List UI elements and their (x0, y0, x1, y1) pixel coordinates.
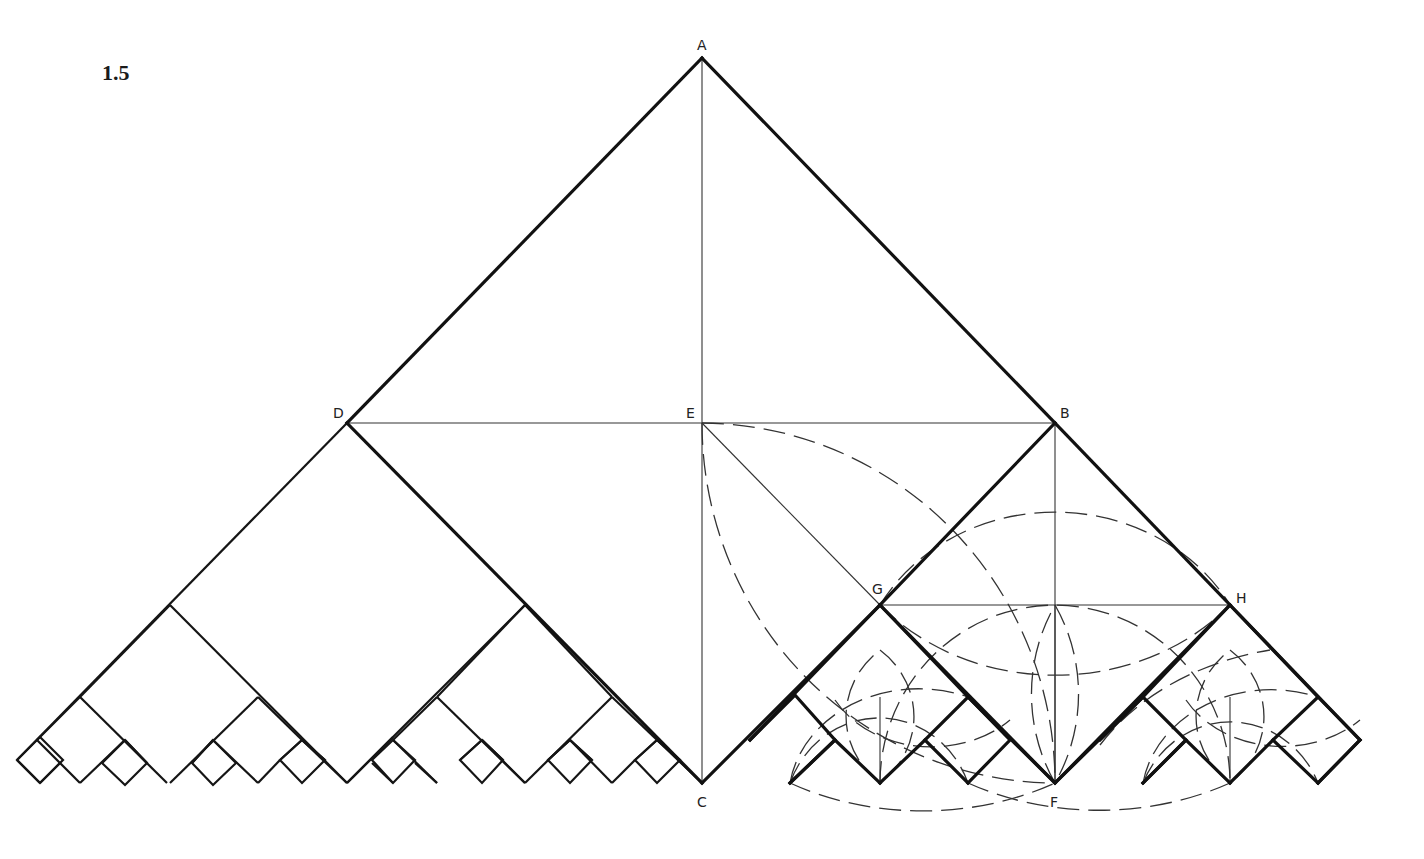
subdivision-lines (17, 423, 702, 783)
construction-square (1100, 697, 1186, 783)
thin-construction-lines (347, 58, 1230, 783)
subdivision-line (37, 740, 80, 783)
dashed-arc (790, 718, 968, 783)
label-E: E (686, 405, 695, 421)
dashed-arc (880, 650, 914, 783)
small-square (460, 740, 503, 783)
right-zigzag (750, 605, 1318, 783)
geometric-construction-diagram: A B C D E F G H (0, 0, 1424, 859)
main-triangle-edges (347, 58, 1360, 783)
subdivision-line (415, 763, 437, 783)
subdivision-line (393, 697, 437, 740)
triangle-edge (1318, 740, 1360, 783)
small-square (548, 740, 592, 783)
construction-square (1273, 697, 1360, 783)
construction-square (1143, 740, 1230, 783)
small-square (372, 740, 415, 783)
dashed-arc (1230, 650, 1264, 783)
dashed-arc (790, 689, 968, 783)
construction-square (750, 695, 835, 783)
construction-square (925, 697, 1010, 783)
label-D: D (333, 405, 344, 421)
label-A: A (697, 37, 707, 53)
subdivision-line (612, 697, 657, 740)
label-B: B (1060, 405, 1070, 421)
label-G: G (872, 581, 883, 597)
label-H: H (1236, 590, 1247, 606)
subdivision-line (258, 697, 302, 740)
subdivision-line (258, 760, 280, 783)
subdivision-line (80, 605, 170, 697)
subdivision-line (612, 760, 635, 783)
small-square (192, 740, 236, 785)
triangle-edge (702, 58, 1055, 423)
dashed-arc (968, 783, 1230, 810)
label-F: F (1050, 794, 1058, 810)
dashed-arc (1031, 605, 1055, 783)
construction-line (702, 423, 880, 605)
dashed-arc (1055, 605, 1079, 783)
small-square (280, 740, 325, 783)
small-squares (17, 737, 680, 785)
triangle-edge (880, 423, 1055, 605)
small-square (635, 740, 680, 783)
construction-square (790, 740, 880, 783)
dashed-arc (790, 783, 1055, 811)
subdivision-line (437, 605, 525, 697)
subdivision-line (37, 697, 80, 740)
label-C: C (697, 794, 707, 810)
small-square (102, 740, 147, 785)
triangle-edge (347, 58, 702, 423)
